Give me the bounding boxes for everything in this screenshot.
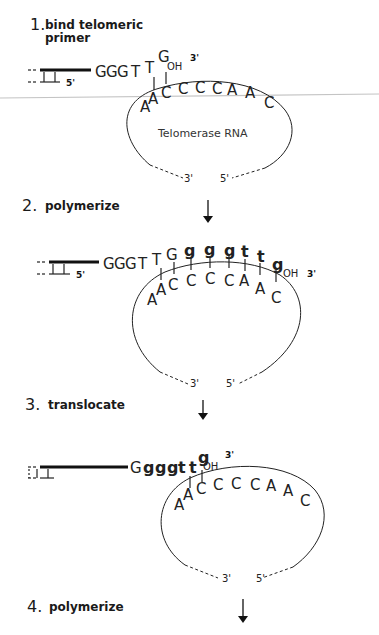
primer-base: T [151, 251, 162, 269]
rna-loop-dashed-5prime [238, 372, 262, 384]
primer-base: t [178, 458, 186, 477]
rna-loop-dashed-5prime [262, 567, 293, 578]
step-3-number: 3. [25, 395, 40, 414]
template-base: A [183, 486, 194, 504]
added-base: g [184, 241, 195, 260]
template-base: C [300, 492, 310, 510]
three-prime-label: 3' [190, 53, 199, 63]
rna-loop-dashed-5prime [232, 168, 265, 178]
primer-base: T [144, 59, 155, 77]
template-base: C [250, 476, 260, 494]
step-1-number: 1. [30, 15, 45, 34]
primer-base: G [103, 255, 115, 273]
rna-5prime-label: 5' [256, 573, 265, 584]
dna-duplex-stub: 5' [37, 262, 99, 280]
step-4-number: 4. [27, 597, 42, 616]
template-base: C [264, 94, 274, 112]
rna-loop-dashed-3prime [160, 372, 188, 384]
step-2-label: polymerize [45, 199, 120, 213]
rna-5prime-label: 5' [220, 173, 229, 184]
template-base: C [196, 480, 206, 498]
primer-base: G [166, 246, 178, 264]
down-arrow [238, 599, 248, 623]
primer-base: g [143, 458, 154, 477]
template-base: C [271, 289, 281, 307]
added-base: t [257, 247, 265, 266]
step-1-label-line1: bind telomeric [45, 18, 143, 32]
template-base: C [231, 475, 241, 493]
template-base: A [283, 482, 294, 500]
template-base: A [266, 477, 277, 495]
dna-duplex-stub: 5' [28, 70, 91, 88]
rna-loop-dashed-3prime [150, 165, 183, 178]
template-base: C [224, 272, 234, 290]
primer-base: T [130, 63, 141, 81]
template-base: C [161, 84, 171, 102]
primer-base: T [137, 255, 148, 273]
template-base: A [239, 272, 250, 290]
step-1-label-line2: primer [45, 31, 90, 45]
telomerase-rna-label: Telomerase RNA [157, 127, 248, 140]
rna-loop-dashed-3prime [185, 565, 218, 578]
template-base: C [205, 270, 215, 288]
down-arrow [198, 400, 208, 420]
template-base: C [195, 79, 205, 97]
step-2: 2. polymerize 5' G G G T T G g g g t t g… [22, 196, 316, 389]
template-base: A [156, 281, 167, 299]
primer-base: G [106, 63, 118, 81]
step-3: 3. translocate G g g g t t g OH 3' [25, 395, 324, 584]
five-prime-label: 5' [66, 78, 75, 88]
template-base: C [213, 476, 223, 494]
template-base: A [148, 90, 159, 108]
template-base: C [178, 80, 188, 98]
oh-label: OH [167, 61, 182, 72]
down-arrow [203, 200, 213, 223]
added-base: g [272, 255, 283, 274]
five-prime-label: 5' [76, 270, 85, 280]
template-base: C [212, 80, 222, 98]
template-base: A [255, 280, 266, 298]
oh-label: OH [283, 268, 298, 279]
telomerase-diagram: 1. bind telomeric primer 5' G G G T T G … [0, 0, 379, 635]
primer-base: g [155, 458, 166, 477]
three-prime-label: 3' [225, 450, 234, 460]
step-2-number: 2. [22, 196, 37, 215]
rna-5prime-label: 5' [226, 378, 235, 389]
template-base: A [227, 81, 238, 99]
dna-duplex-stub [28, 467, 128, 478]
template-base: C [186, 272, 196, 290]
scan-line [0, 94, 379, 98]
primer-base: G [117, 63, 129, 81]
primer-base: g [167, 458, 178, 477]
step-3-label: translocate [48, 398, 125, 412]
added-base: t [241, 242, 249, 261]
step-1: 1. bind telomeric primer 5' G G G T T G … [28, 15, 292, 184]
primer-base: G [130, 459, 142, 477]
three-prime-label: 3' [307, 269, 316, 279]
primer-base: t [189, 458, 197, 477]
step-4: 4. polymerize [27, 597, 248, 623]
primer-base: G [125, 255, 137, 273]
rna-3prime-label: 3' [222, 573, 231, 584]
rna-3prime-label: 3' [184, 173, 193, 184]
primer-base: G [114, 255, 126, 273]
primer-base: G [95, 63, 107, 81]
rna-loop [161, 466, 324, 567]
step-4-label: polymerize [49, 600, 124, 614]
added-base: g [224, 241, 235, 260]
template-base: C [168, 276, 178, 294]
rna-3prime-label: 3' [190, 378, 199, 389]
template-base: A [245, 84, 256, 102]
